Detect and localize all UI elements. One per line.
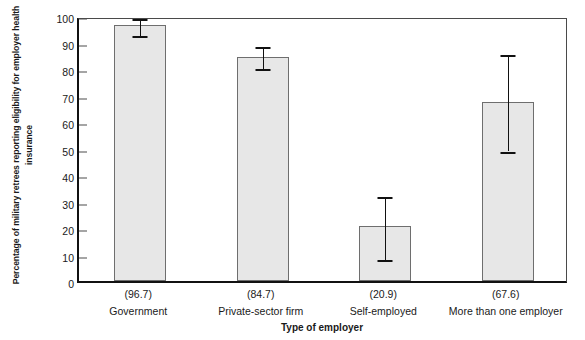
x-axis-title: Type of employer [77,322,567,333]
x-axis-value-label: (84.7) [247,288,274,300]
y-axis-title: Percentage of military retrees reporting… [0,0,44,290]
y-axis-tick-mark [79,204,87,205]
y-axis-tick-label: 10 [50,252,74,264]
y-axis-tick-mark [79,19,87,20]
y-axis-tick-mark [79,231,87,232]
x-axis-category-label: Government [109,305,167,317]
y-axis-tick-mark [79,151,87,152]
error-bar-line [263,47,264,70]
error-bar-cap-lower [500,152,515,154]
y-axis-tick-label: 90 [50,40,74,52]
y-axis-title-text: Percentage of military retrees reporting… [10,2,35,288]
y-axis-tick-mark [79,125,87,126]
y-axis-tick-label: 50 [50,146,74,158]
x-axis-category-label: Self-employed [350,305,417,317]
error-bar-cap-upper [378,197,393,199]
clipped-caption [18,333,308,340]
bar-chart-figure: Percentage of military retrees reporting… [0,0,585,340]
y-axis-tick-mark [79,72,87,73]
y-axis-tick-label: 100 [50,13,74,25]
bar [237,57,289,281]
x-axis-value-label: (96.7) [125,288,152,300]
y-axis-tick-mark [79,98,87,99]
x-axis-value-label: (67.6) [492,288,519,300]
error-bar-line [508,55,509,152]
error-bar-cap-lower [378,260,393,262]
x-axis-value-label: (20.9) [370,288,397,300]
y-axis-tick-mark [79,45,87,46]
error-bar-cap-lower [255,69,270,71]
y-axis-tick-label: 80 [50,66,74,78]
error-bar-line [385,197,386,261]
error-bar-cap-lower [133,36,148,38]
error-bar-cap-upper [255,47,270,49]
y-axis-tick-label: 0 [50,278,74,290]
y-axis-tick-mark [79,178,87,179]
x-axis-category-label: Private-sector firm [218,305,303,317]
error-bar-cap-upper [133,19,148,21]
y-axis-tick-label: 40 [50,172,74,184]
y-axis-tick-label: 60 [50,119,74,131]
bar [114,25,166,281]
y-axis-tick-label: 20 [50,225,74,237]
error-bar-cap-upper [500,55,515,57]
error-bar-line [140,19,141,36]
y-axis-tick-label: 30 [50,199,74,211]
x-axis-category-label: More than one employer [449,305,563,317]
plot-area: 0102030405060708090100 [77,18,567,283]
y-axis-tick-mark [79,257,87,258]
y-axis-tick-label: 70 [50,93,74,105]
